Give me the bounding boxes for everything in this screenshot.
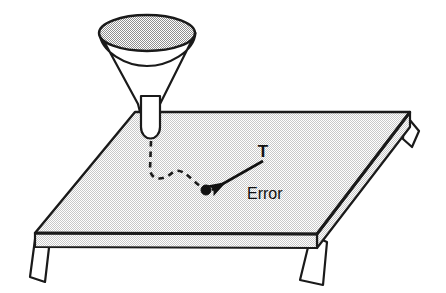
funnel-stem [141, 96, 160, 139]
landing-point-dot [201, 185, 211, 195]
table-top-surface [35, 112, 410, 234]
table-slab [35, 112, 410, 248]
technical-diagram: T Error [0, 0, 446, 293]
target-label: T [258, 142, 269, 161]
funnel-bowl-opening [99, 15, 195, 51]
table-front-top-edge [35, 233, 317, 234]
error-label: Error [247, 185, 283, 202]
figure-root: T Error [0, 0, 446, 293]
